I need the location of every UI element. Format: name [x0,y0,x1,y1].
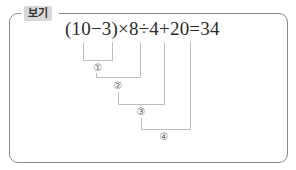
order-of-operations-brackets [0,0,296,170]
step-marker-4: ④ [157,131,171,143]
step-marker-2: ② [111,80,125,92]
step-marker-3: ③ [134,106,148,118]
step-marker-1: ① [91,62,105,74]
bracket-step-1 [84,42,113,61]
bracket-step-4 [142,42,191,130]
bracket-step-3 [119,42,165,105]
